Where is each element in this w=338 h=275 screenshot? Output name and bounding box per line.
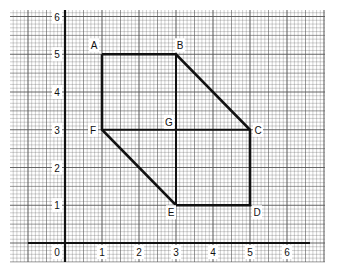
y-tick-label-5: 5	[54, 49, 60, 60]
y-tick-label-6: 6	[54, 12, 60, 23]
y-tick-label-3: 3	[54, 125, 60, 136]
point-label-e: E	[168, 207, 175, 218]
coordinate-grid-diagram: 0123456123456 ABCDEFG	[0, 0, 338, 275]
x-tick-label-1: 1	[99, 247, 105, 258]
graph-paper: 0123456123456 ABCDEFG	[0, 0, 338, 275]
y-tick-label-2: 2	[54, 163, 60, 174]
x-tick-label-5: 5	[247, 247, 253, 258]
point-label-d: D	[253, 207, 260, 218]
point-label-f: F	[90, 125, 96, 136]
x-tick-label-3: 3	[173, 247, 179, 258]
x-tick-label-2: 2	[136, 247, 142, 258]
x-tick-label-4: 4	[210, 247, 216, 258]
point-label-a: A	[91, 40, 98, 51]
x-tick-label-6: 6	[284, 247, 290, 258]
x-tick-label-0: 0	[54, 247, 60, 258]
point-label-c: C	[254, 125, 261, 136]
y-tick-label-4: 4	[54, 87, 60, 98]
point-label-g: G	[165, 117, 173, 128]
point-label-b: B	[177, 40, 184, 51]
y-tick-label-1: 1	[54, 200, 60, 211]
